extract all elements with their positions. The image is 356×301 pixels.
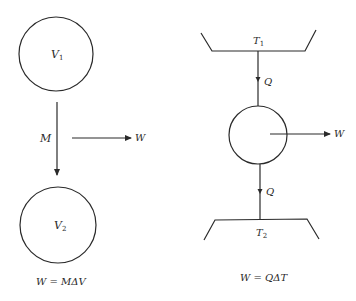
heat-out-label: Q xyxy=(266,186,274,197)
work-label-right: W xyxy=(334,128,345,139)
heat-in-arrow-icon xyxy=(256,77,261,82)
mass-flow-label: M xyxy=(39,132,52,145)
hot-reservoir-label: T1 xyxy=(253,35,264,48)
right-diagram: T1 Q W Q T2 W = QΔT xyxy=(201,30,345,283)
cold-reservoir-label: T2 xyxy=(256,227,267,240)
heat-in-label: Q xyxy=(264,76,272,87)
upper-reservoir-label: V1 xyxy=(51,48,63,62)
work-label-left: W xyxy=(135,132,146,143)
analogy-diagram: V1 M W V2 W = MΔV T1 Q W Q T2 W = QΔT xyxy=(0,0,356,301)
heat-out-arrow-icon xyxy=(258,189,263,194)
formula-right: W = QΔT xyxy=(240,272,288,283)
lower-reservoir-label: V2 xyxy=(54,219,66,233)
engine-circle xyxy=(229,106,287,164)
formula-left: W = MΔV xyxy=(36,276,87,287)
left-diagram: V1 M W V2 W = MΔV xyxy=(19,17,146,287)
